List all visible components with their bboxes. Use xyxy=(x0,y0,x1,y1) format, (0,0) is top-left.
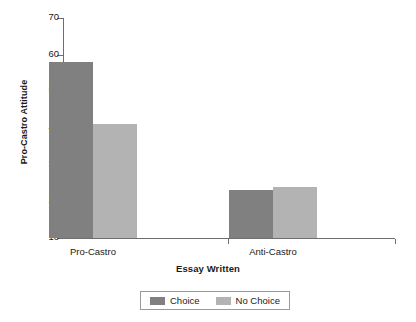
bar-chart: Pro-Castro Attitude 10203040506070 Pro-C… xyxy=(0,0,416,322)
legend-item[interactable]: No Choice xyxy=(216,295,280,306)
x-axis-line xyxy=(63,238,395,239)
legend-swatch-icon xyxy=(150,297,165,305)
bar xyxy=(93,124,137,238)
x-category-label: Pro-Castro xyxy=(70,246,116,257)
x-tick xyxy=(395,239,396,244)
legend-label: No Choice xyxy=(236,295,280,306)
x-axis-title: Essay Written xyxy=(0,263,416,274)
x-category-label: Anti-Castro xyxy=(249,246,297,257)
bar xyxy=(229,190,273,238)
legend-swatch-icon xyxy=(216,297,231,305)
y-axis-title: Pro-Castro Attitude xyxy=(19,52,29,192)
x-tick xyxy=(228,239,229,244)
bar xyxy=(49,62,93,238)
chart-legend: ChoiceNo Choice xyxy=(140,291,290,310)
legend-item[interactable]: Choice xyxy=(150,295,200,306)
legend-label: Choice xyxy=(170,295,200,306)
y-tick-label: 60 xyxy=(48,48,59,59)
y-tick-label: 70 xyxy=(48,11,59,22)
plot-area: 10203040506070 xyxy=(63,18,395,238)
bar xyxy=(273,187,317,238)
